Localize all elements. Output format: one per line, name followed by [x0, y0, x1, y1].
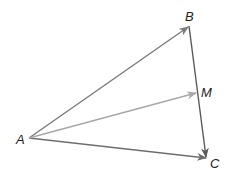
vector-ab — [29, 27, 188, 138]
point-label-b: B — [185, 9, 194, 24]
point-label-m: M — [201, 85, 212, 100]
point-label-a: A — [15, 132, 25, 147]
vector-diagram: A B C M — [0, 0, 232, 190]
point-label-c: C — [210, 156, 220, 171]
vector-ac — [29, 138, 206, 158]
vector-am — [29, 93, 196, 138]
